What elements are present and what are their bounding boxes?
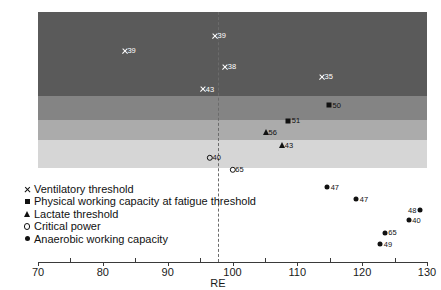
x-tick-minor	[330, 258, 331, 262]
data-point: 51	[286, 118, 291, 123]
x-tick-label-70: 70	[32, 266, 44, 278]
data-point: 39	[211, 32, 218, 39]
x-tick-minor	[395, 258, 396, 262]
circle-filled-marker-icon	[417, 208, 422, 213]
circle-filled-marker-icon	[406, 218, 411, 223]
circle-filled-marker-icon	[325, 185, 330, 190]
triangle-marker-icon	[24, 211, 30, 217]
data-point-label: 47	[331, 183, 339, 192]
circle-filled-marker-icon	[382, 230, 387, 235]
legend-item-label: Critical power	[34, 220, 101, 232]
square-marker-icon	[25, 199, 30, 204]
data-point-label: 51	[292, 116, 300, 125]
x-tick-label-130: 130	[418, 266, 436, 278]
square-marker-icon	[327, 103, 332, 108]
x-tick-label-100: 100	[223, 266, 241, 278]
x-tick-minor	[135, 258, 136, 262]
data-point-label: 40	[213, 153, 221, 162]
legend-item: Ventilatory threshold	[20, 183, 256, 195]
circle-open-marker-icon	[24, 223, 30, 229]
square-marker-icon	[286, 118, 291, 123]
data-point: 40	[207, 154, 213, 160]
data-point-label: 47	[360, 195, 368, 204]
legend-item-label: Physical working capacity at fatigue thr…	[34, 195, 256, 207]
triangle-legend-icon	[20, 211, 34, 217]
data-point-label: 49	[384, 240, 392, 249]
data-point: 56	[263, 129, 269, 135]
band-critical-power	[38, 140, 427, 168]
x-legend-icon	[20, 186, 34, 193]
legend-item: Critical power	[20, 220, 256, 232]
data-point-label: 65	[388, 228, 396, 237]
data-point: 39	[121, 47, 128, 54]
x-tick-label-110: 110	[289, 266, 307, 278]
legend-item-label: Ventilatory threshold	[34, 183, 134, 195]
circle-filled-marker-icon	[25, 236, 30, 241]
data-point: 50	[327, 103, 332, 108]
circle-filled-legend-icon	[20, 236, 34, 241]
data-point: 38	[222, 63, 229, 70]
x-marker-icon	[24, 186, 31, 193]
data-point-label: 39	[217, 31, 225, 40]
circle-filled-marker-icon	[354, 197, 359, 202]
data-point: 47	[325, 185, 330, 190]
legend-item: Physical working capacity at fatigue thr…	[20, 195, 256, 207]
x-tick-minor	[200, 258, 201, 262]
square-legend-icon	[20, 199, 34, 204]
data-point: 48	[417, 208, 422, 213]
data-point-label: 43	[285, 140, 293, 149]
legend-item-label: Anaerobic working capacity	[34, 233, 168, 245]
legend-item-label: Lactate threshold	[34, 208, 118, 220]
x-tick-minor	[265, 258, 266, 262]
data-point: 40	[406, 218, 411, 223]
x-tick-label-80: 80	[97, 266, 109, 278]
data-point-label: 48	[408, 206, 416, 215]
x-tick-minor	[70, 258, 71, 262]
data-point-label: 40	[412, 216, 420, 225]
data-point: 65	[229, 167, 235, 173]
data-point: 43	[279, 142, 285, 148]
data-point-label: 38	[228, 62, 236, 71]
data-point: 35	[318, 73, 325, 80]
x-tick-label-120: 120	[353, 266, 371, 278]
x-axis-title: RE	[210, 277, 225, 289]
legend-item: Anaerobic working capacity	[20, 233, 256, 245]
plot-area	[38, 12, 427, 168]
data-point-label: 56	[269, 128, 277, 137]
data-point: 43	[200, 86, 207, 93]
band-pwcft	[38, 96, 427, 120]
x-tick-label-90: 90	[162, 266, 174, 278]
data-point-label: 65	[235, 165, 243, 174]
legend-item: Lactate threshold	[20, 208, 256, 220]
data-point: 49	[378, 242, 383, 247]
data-point-label: 39	[127, 46, 135, 55]
data-point-label: 35	[324, 72, 332, 81]
band-ventilatory-threshold	[38, 12, 427, 96]
circle-open-legend-icon	[20, 223, 34, 229]
scatter-chart: 3939383543505156434065474748406549 70809…	[0, 0, 441, 290]
data-point-label: 43	[206, 85, 214, 94]
data-point-label: 50	[333, 101, 341, 110]
chart-legend: Ventilatory thresholdPhysical working ca…	[20, 183, 256, 245]
circle-filled-marker-icon	[378, 242, 383, 247]
data-point: 47	[354, 197, 359, 202]
band-lactate-threshold	[38, 120, 427, 140]
data-point: 65	[382, 230, 387, 235]
